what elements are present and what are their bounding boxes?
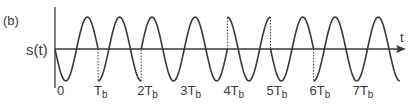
time-tick-label: 7Tb	[353, 84, 374, 100]
panel-label: (b)	[3, 14, 19, 27]
x-axis-label: t	[400, 31, 404, 44]
time-tick-label: Tb	[94, 84, 108, 100]
time-tick-label: 6Tb	[310, 84, 331, 100]
y-axis-label: s(t)	[26, 42, 48, 57]
time-tick-label: 4Tb	[223, 84, 244, 100]
time-tick-label: 0	[57, 84, 64, 97]
time-tick-label: 5Tb	[267, 84, 288, 100]
time-tick-label: 2Tb	[137, 84, 158, 100]
time-tick-label: 3Tb	[180, 84, 201, 100]
